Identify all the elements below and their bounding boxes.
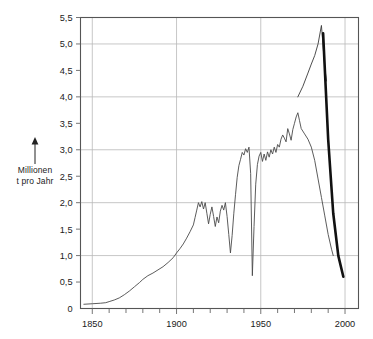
y-axis-tick-label: 2,0 [60,198,73,208]
y-axis-tick-label: 3,5 [60,119,73,129]
data-series-production-thin-line [84,113,333,305]
y-axis-tick-label: 1,0 [60,251,73,261]
chart-plot: 00,51,01,52,02,53,03,54,04,55,05,5185019… [0,0,373,339]
chart-container: Millionen t pro Jahr 00,51,01,52,02,53,0… [0,0,373,339]
y-axis-tick-label: 0 [67,304,72,314]
x-axis-tick-label: 2000 [335,319,355,329]
y-axis-tick-label: 5,0 [60,39,73,49]
y-axis-tick-label: 1,5 [60,225,73,235]
y-axis-tick-label: 3,0 [60,145,73,155]
y-axis-tick-label: 4,5 [60,66,73,76]
x-axis-tick-label: 1950 [251,319,271,329]
y-axis-tick-label: 0,5 [60,277,73,287]
x-axis-tick-label: 1900 [166,319,186,329]
y-axis-tick-label: 5,5 [60,13,73,23]
plot-frame [81,18,359,309]
x-axis-tick-label: 1850 [82,319,102,329]
y-axis-tick-label: 4,0 [60,92,73,102]
data-series-decline-thick-line [323,33,343,276]
y-axis-tick-label: 2,5 [60,172,73,182]
